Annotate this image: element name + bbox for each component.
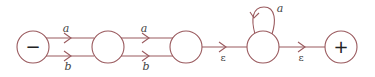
state-3 <box>170 31 202 63</box>
edge-s3-s4-epsilon: ε <box>201 42 248 63</box>
edge-label-a: a <box>63 22 70 35</box>
edge-s1-s2-b: b <box>45 51 94 73</box>
edge-label-b: b <box>64 60 71 73</box>
edge-label-a: a <box>277 2 284 15</box>
state-2 <box>92 31 124 63</box>
state-final: + <box>325 31 357 63</box>
edge-label-epsilon: ε <box>220 52 225 63</box>
edge-s1-s2-a: a <box>45 22 94 43</box>
edge-s2-s3-a: a <box>121 22 173 43</box>
final-plus-symbol: + <box>333 36 348 57</box>
edge-label-a: a <box>141 22 148 35</box>
state-start: − <box>17 31 49 63</box>
automaton-diagram: a b a b ε a ε − <box>0 0 375 77</box>
edge-label-epsilon: ε <box>298 52 303 63</box>
edge-s2-s3-b: b <box>121 51 173 73</box>
edge-s4-s5-epsilon: ε <box>278 42 326 63</box>
state-4 <box>247 31 279 63</box>
edge-label-b: b <box>142 60 149 73</box>
start-minus-symbol: − <box>25 36 40 57</box>
edge-s4-self-loop-a: a <box>250 2 283 34</box>
